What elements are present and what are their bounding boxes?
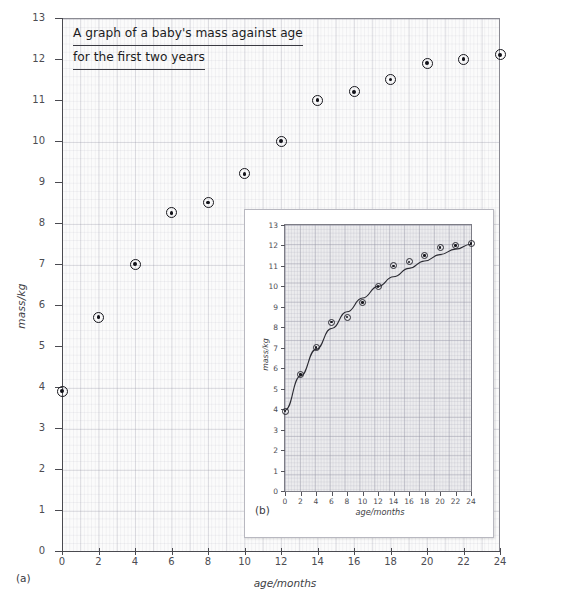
inset-x-tick <box>363 492 364 496</box>
inset-y-tick <box>281 327 285 328</box>
data-point <box>276 136 287 147</box>
marker-core <box>133 262 137 266</box>
inset-x-tick <box>378 492 379 496</box>
inset-y-tick-label: 11 <box>262 262 278 271</box>
main-y-tick-label: 9 <box>19 177 45 187</box>
inset-y-tick <box>281 266 285 267</box>
main-x-axis-label: age/months <box>215 577 355 589</box>
inset-data-point <box>421 252 428 259</box>
inset-data-point <box>313 344 320 351</box>
inset-x-tick <box>425 492 426 496</box>
inset-x-tick-label: 12 <box>370 497 386 506</box>
main-x-tick-label: 8 <box>196 556 220 567</box>
figure-root: 012345678910111213 024681012141618202224… <box>0 0 565 603</box>
inset-x-tick-label: 16 <box>401 497 417 506</box>
inset-panel-b: 012345678910111213 024681012141618202224… <box>244 209 494 538</box>
main-y-tick-label: 8 <box>19 218 45 228</box>
inset-y-tick <box>281 348 285 349</box>
inset-y-tick <box>281 368 285 369</box>
inset-plot-area <box>284 224 472 492</box>
inset-x-tick-label: 18 <box>417 497 433 506</box>
main-y-tick-label: 2 <box>19 464 45 474</box>
marker-core <box>425 61 429 65</box>
inset-x-tick-label: 10 <box>355 497 371 506</box>
data-point <box>312 95 323 106</box>
main-x-tick <box>427 548 428 555</box>
marker-core <box>454 244 457 247</box>
main-x-tick <box>464 548 465 555</box>
inset-y-tick-label: 5 <box>262 385 278 394</box>
main-y-tick <box>55 100 63 101</box>
main-x-tick-label: 18 <box>379 556 403 567</box>
marker-core <box>423 254 426 257</box>
inset-x-tick <box>285 492 286 496</box>
inset-x-tick <box>301 492 302 496</box>
inset-x-tick <box>394 492 395 496</box>
main-x-tick-label: 24 <box>488 556 512 567</box>
inset-y-tick-label: 1 <box>262 467 278 476</box>
main-y-tick <box>55 264 63 265</box>
main-x-tick <box>135 548 136 555</box>
inset-y-axis-label: mass/kg <box>261 327 270 383</box>
chart-title-line-1: A graph of a baby's mass against age <box>73 22 303 46</box>
main-y-tick-label: 1 <box>19 505 45 515</box>
inset-y-tick <box>281 430 285 431</box>
data-point <box>57 386 68 397</box>
inset-x-tick <box>456 492 457 496</box>
inset-x-tick-label: 20 <box>432 497 448 506</box>
main-y-tick <box>55 182 63 183</box>
main-x-tick <box>391 548 392 555</box>
main-x-tick-label: 6 <box>160 556 184 567</box>
marker-core <box>299 373 302 376</box>
main-x-tick <box>245 548 246 555</box>
inset-x-tick-label: 8 <box>339 497 355 506</box>
main-y-tick <box>55 428 63 429</box>
main-y-tick <box>55 223 63 224</box>
main-y-tick <box>55 346 63 347</box>
inset-y-tick-label: 12 <box>262 241 278 250</box>
inset-x-tick-label: 14 <box>386 497 402 506</box>
data-point <box>130 259 141 270</box>
data-point <box>458 54 469 65</box>
main-y-tick-label: 12 <box>19 54 45 64</box>
inset-x-tick-label: 2 <box>293 497 309 506</box>
inset-x-tick-label: 22 <box>448 497 464 506</box>
main-x-tick-label: 0 <box>50 556 74 567</box>
inset-y-tick <box>281 389 285 390</box>
inset-data-point <box>468 240 475 247</box>
marker-core <box>279 139 283 143</box>
main-y-tick <box>55 510 63 511</box>
main-x-tick-label: 12 <box>269 556 293 567</box>
marker-core <box>361 301 364 304</box>
marker-core <box>60 389 64 393</box>
main-y-tick-label: 4 <box>19 382 45 392</box>
main-y-tick <box>55 18 63 19</box>
inset-x-tick <box>440 492 441 496</box>
inset-y-tick-label: 13 <box>262 221 278 230</box>
main-x-tick-label: 16 <box>342 556 366 567</box>
inset-data-point <box>328 319 335 326</box>
main-x-tick-label: 20 <box>415 556 439 567</box>
marker-core <box>377 285 380 288</box>
inset-data-point <box>437 244 444 251</box>
inset-data-point <box>282 408 289 415</box>
data-point <box>385 74 396 85</box>
inset-y-tick <box>281 307 285 308</box>
marker-core <box>243 172 247 176</box>
inset-x-tick <box>347 492 348 496</box>
inset-data-point <box>406 258 413 265</box>
main-y-tick <box>55 141 63 142</box>
main-y-tick-label: 11 <box>19 95 45 105</box>
marker-core <box>498 53 502 57</box>
inset-x-axis-label: age/months <box>325 507 435 517</box>
main-y-tick <box>55 469 63 470</box>
main-x-tick-label: 22 <box>452 556 476 567</box>
main-y-tick-label: 10 <box>19 136 45 146</box>
main-y-tick-label: 3 <box>19 423 45 433</box>
inset-y-tick-label: 4 <box>262 405 278 414</box>
main-x-tick <box>281 548 282 555</box>
inset-x-tick-label: 4 <box>308 497 324 506</box>
main-x-tick <box>62 548 63 555</box>
inset-y-tick <box>281 450 285 451</box>
main-x-tick-label: 4 <box>123 556 147 567</box>
